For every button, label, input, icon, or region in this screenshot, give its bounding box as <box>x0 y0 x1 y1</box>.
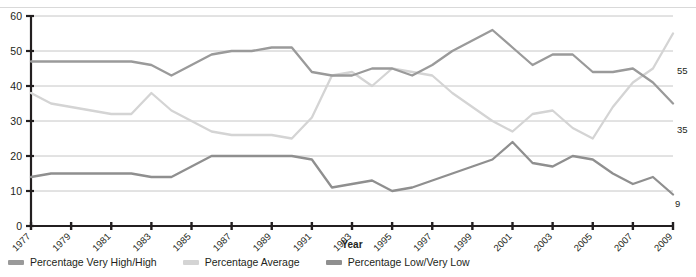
series-line-0 <box>31 30 673 104</box>
legend-label-low-very-low: Percentage Low/Very Low <box>348 256 470 268</box>
x-tick-label-2003: 2003 <box>531 231 554 252</box>
x-tick-label-1999: 1999 <box>451 231 474 252</box>
x-tick-label-1979: 1979 <box>50 231 73 252</box>
x-tick-label-2005: 2005 <box>571 231 594 252</box>
legend-item-low-very-low: Percentage Low/Very Low <box>326 256 470 268</box>
x-tick-label-1995: 1995 <box>371 231 394 252</box>
end-value-label-55: 55 <box>677 65 688 76</box>
x-tick-label-2007: 2007 <box>612 231 635 252</box>
top-divider-rule <box>0 7 696 8</box>
legend-item-average: Percentage Average <box>183 256 300 268</box>
y-tick-label-60: 60 <box>10 10 22 22</box>
x-tick-label-2009: 2009 <box>652 231 675 252</box>
x-tick-label-2001: 2001 <box>491 231 514 252</box>
legend-label-very-high-high: Percentage Very High/High <box>30 256 157 268</box>
chart-plot-area: 0102030405060197719791981198319851987198… <box>0 0 696 252</box>
legend-label-average: Percentage Average <box>205 256 300 268</box>
legend-item-very-high-high: Percentage Very High/High <box>8 256 157 268</box>
x-tick-label-1985: 1985 <box>170 231 193 252</box>
legend-swatch-very-high-high <box>8 260 24 265</box>
y-tick-label-20: 20 <box>10 150 22 162</box>
legend-swatch-average <box>183 260 199 265</box>
chart-legend: Percentage Very High/High Percentage Ave… <box>8 256 470 268</box>
legend-swatch-low-very-low <box>326 260 342 265</box>
x-tick-label-1997: 1997 <box>411 231 434 252</box>
x-tick-label-1983: 1983 <box>130 231 153 252</box>
x-tick-label-1991: 1991 <box>291 231 314 252</box>
y-tick-label-40: 40 <box>10 80 22 92</box>
x-tick-label-1977: 1977 <box>10 231 33 252</box>
y-tick-label-10: 10 <box>10 185 22 197</box>
x-tick-label-1987: 1987 <box>210 231 233 252</box>
x-tick-label-1989: 1989 <box>250 231 273 252</box>
x-axis-title: Year <box>341 239 362 250</box>
series-line-2 <box>31 142 673 195</box>
y-tick-label-50: 50 <box>10 45 22 57</box>
line-chart: 0102030405060197719791981198319851987198… <box>0 0 696 277</box>
y-tick-label-0: 0 <box>16 220 22 232</box>
end-value-label-35: 35 <box>677 124 688 135</box>
end-value-label-9: 9 <box>675 198 680 209</box>
y-tick-label-30: 30 <box>10 115 22 127</box>
x-tick-label-1981: 1981 <box>90 231 113 252</box>
